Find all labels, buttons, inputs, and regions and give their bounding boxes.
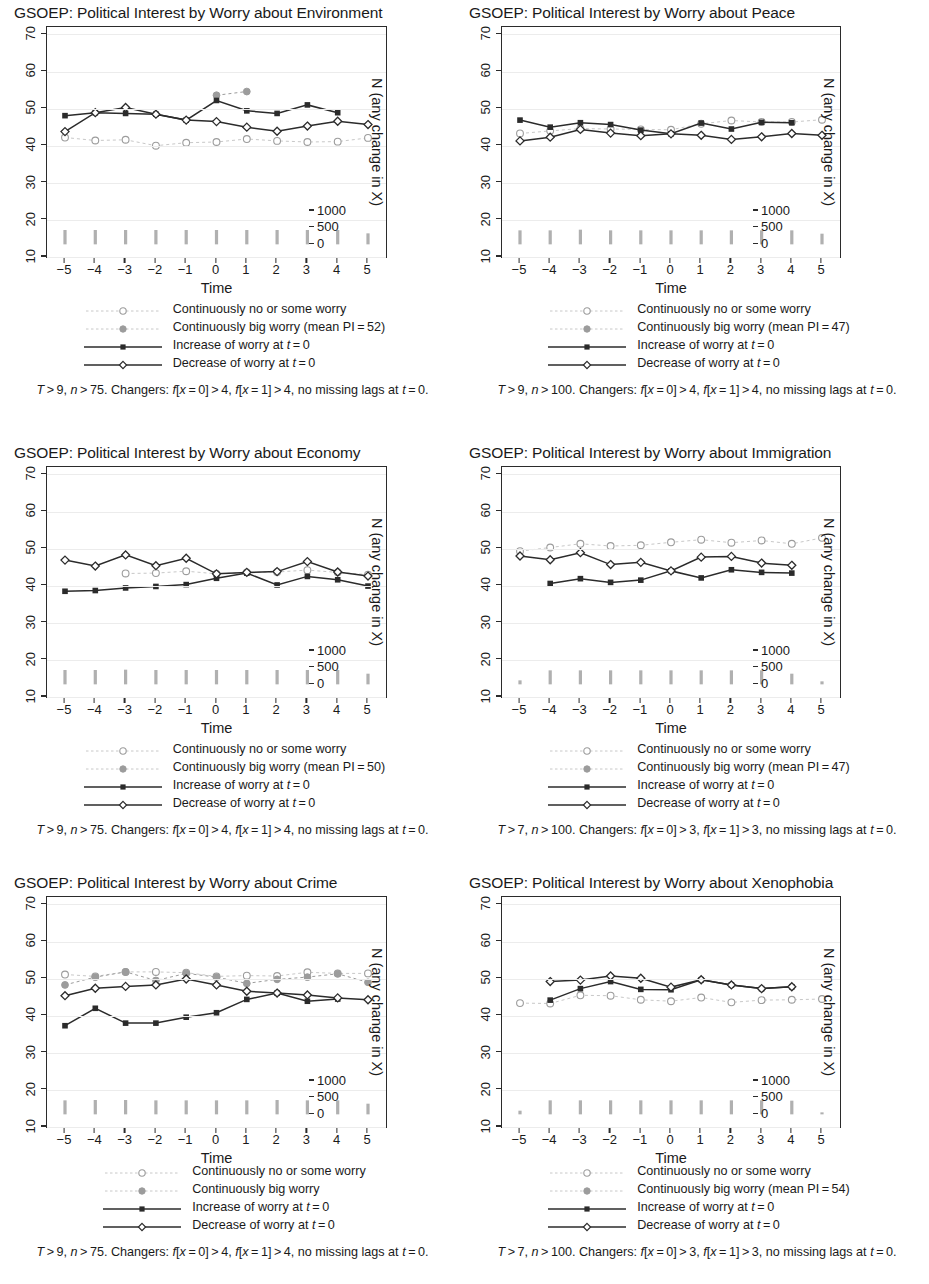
tick-mark [753,666,758,667]
x-axis-tick-label: −3 [572,1133,587,1148]
x-axis-tick: −5 [57,1128,72,1148]
x-axis-tick: 0 [666,698,673,718]
x-axis-tick: 5 [817,258,824,278]
legend-item: Continuously no or some worry [544,1162,850,1179]
legend-label: Continuously big worry (mean PI = 52) [173,320,386,334]
legend-item: Continuously big worry (mean PI = 54) [544,1180,850,1197]
panel-peace: GSOEP: Political Interest by Worry about… [465,0,929,440]
tick-mark [309,1113,314,1114]
x-axis-tick-label: 1 [697,703,704,718]
x-axis-tick: 0 [212,258,219,278]
x-axis: −5−4−3−2−1012345 [46,1128,387,1146]
y-axis-tick-label: 20 [24,212,37,226]
legend-item: Increase of worry at t = 0 [544,336,850,353]
legend-key-dotted-open-circle [80,743,166,755]
tick-mark [753,1096,758,1097]
legend-key-solid-filled-square [544,339,630,351]
tick-mark [753,209,758,210]
y-axis-tick-label: 30 [24,175,37,189]
legend-key-solid-open-diamond [544,1219,630,1231]
y-axis: 10203040506070 [0,466,46,698]
x-axis-tick: −1 [632,698,647,718]
x-axis-tick-label: 2 [272,703,279,718]
legend-key-dotted-open-circle [80,303,166,315]
right-axis-tick-label: 0 [761,237,768,250]
x-axis-tick: −1 [178,698,193,718]
y-axis-tick-label: 20 [479,212,492,226]
x-axis-tick-label: 5 [363,263,370,278]
x-axis-tick-label: 3 [757,703,764,718]
x-axis-tick: 4 [787,1128,794,1148]
x-axis-tick-label: −4 [87,263,102,278]
tick-mark [309,1096,314,1097]
right-axis-title: N (any change in X) [821,78,837,206]
y-axis-tick-label: 50 [24,970,37,984]
legend-item: Decrease of worry at t = 0 [544,794,850,811]
legend-key-solid-filled-square [80,339,166,351]
y-axis-tick-label: 10 [479,689,492,703]
right-axis-tick-label: 0 [317,237,324,250]
legend-key-dotted-open-circle [544,1165,630,1177]
x-axis-tick: −1 [178,258,193,278]
legend-key-solid-open-diamond [80,357,166,369]
y-axis-tick-label: 10 [24,1119,37,1133]
x-axis-tick-label: 4 [787,1133,794,1148]
legend-label: Continuously no or some worry [173,302,347,316]
x-axis-tick-label: 0 [666,263,673,278]
x-axis-tick-label: 0 [666,1133,673,1148]
x-axis-tick-label: −3 [117,703,132,718]
x-axis-tick: −3 [572,258,587,278]
x-axis-tick-label: 0 [666,703,673,718]
x-axis-tick: 0 [666,258,673,278]
legend-item: Increase of worry at t = 0 [80,776,386,793]
y-axis-tick-label: 70 [24,466,37,480]
x-axis-tick: 4 [333,258,340,278]
x-axis: −5−4−3−2−1012345 [501,698,841,716]
legend-item: Continuously no or some worry [544,300,850,317]
legend-item: Increase of worry at t = 0 [544,1198,850,1215]
legend-item: Continuously no or some worry [99,1162,366,1179]
x-axis-tick: 1 [697,698,704,718]
right-axis-tick-label: 500 [761,220,783,233]
legend-label: Continuously no or some worry [637,302,811,316]
tick-mark [309,666,314,667]
x-axis-tick-label: 1 [697,1133,704,1148]
x-axis-tick: 3 [303,258,310,278]
panel-title: GSOEP: Political Interest by Worry about… [469,444,831,462]
x-axis-tick: 5 [817,698,824,718]
y-axis-tick-label: 50 [479,970,492,984]
legend-label: Increase of worry at t = 0 [637,338,774,352]
x-axis-tick: −3 [117,258,132,278]
x-axis-tick: −2 [147,1128,162,1148]
y-axis-tick-label: 40 [24,137,37,151]
right-axis-title: N (any change in X) [369,518,385,646]
plot-area: 10203040506070 N (any change in X) 05001… [0,466,465,734]
legend: Continuously no or some worryContinuousl… [0,740,465,811]
legend-label: Continuously no or some worry [637,1164,811,1178]
right-axis-tick-label: 1000 [761,644,790,657]
right-axis-title: N (any change in X) [821,948,837,1076]
x-axis-tick: 0 [212,698,219,718]
legend-key-dotted-open-circle [544,743,630,755]
y-axis-tick-label: 10 [479,249,492,263]
legend-label: Increase of worry at t = 0 [173,338,310,352]
panel-title: GSOEP: Political Interest by Worry about… [14,444,360,462]
y-axis-tick-label: 30 [24,1045,37,1059]
x-axis-tick: −3 [117,698,132,718]
legend-key-dotted-filled-circle [99,1183,185,1195]
x-axis-tick-label: −2 [602,263,617,278]
x-axis-tick: 4 [787,258,794,278]
y-axis-tick-label: 30 [479,1045,492,1059]
x-axis-tick-label: 5 [363,1133,370,1148]
x-axis-tick: −2 [147,258,162,278]
right-axis-tick-label: 500 [761,1090,783,1103]
y-axis-tick-label: 70 [479,896,492,910]
x-axis-title: Time [501,280,841,296]
x-axis-tick-label: −4 [542,263,557,278]
panel-title: GSOEP: Political Interest by Worry about… [469,874,833,892]
right-axis: N (any change in X) 05001000 [309,26,387,258]
legend: Continuously no or some worryContinuousl… [465,740,929,811]
legend-item: Increase of worry at t = 0 [99,1198,366,1215]
x-axis-tick: 3 [757,1128,764,1148]
x-axis-tick-label: 0 [212,1133,219,1148]
